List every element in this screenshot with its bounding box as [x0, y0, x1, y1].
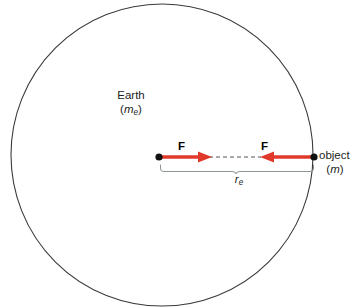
force-label-left: F [178, 140, 185, 154]
object-label: object [319, 149, 350, 161]
earth-radius-label: re [227, 173, 251, 187]
earth-center-dot [155, 153, 162, 160]
gravitation-earth-object-diagram: Earth (me) object (m) F F re [0, 0, 352, 307]
earth-label: Earth [117, 89, 145, 101]
force-arrow-left [160, 152, 212, 163]
earth-mass-subscript: e [134, 108, 139, 117]
force-label-right: F [261, 140, 268, 154]
object-label-group: object (m) [319, 149, 351, 176]
earth-mass-label: (me) [100, 103, 162, 117]
earth-mass-close-paren: ) [138, 103, 142, 115]
object-mass-label: (m) [319, 163, 351, 177]
earth-mass-symbol: m [124, 103, 134, 115]
radius-subscript: e [239, 178, 244, 187]
diagram-canvas [0, 0, 352, 307]
object-mass-symbol: m [330, 163, 340, 175]
object-mass-close-paren: ) [340, 163, 344, 175]
earth-label-group: Earth (me) [100, 89, 162, 116]
object-dot [310, 153, 317, 160]
